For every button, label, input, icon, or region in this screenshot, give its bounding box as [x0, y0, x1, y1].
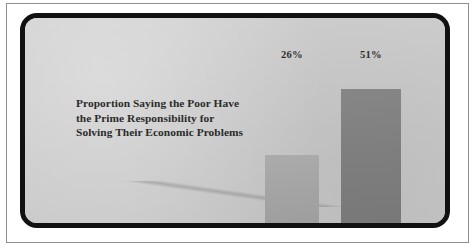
bar-value-most-active-citizens: 51% [341, 49, 401, 60]
chart-frame: Proportion Saying the Poor Have the Prim… [20, 13, 450, 228]
bar-value-inactive-citizens: 26% [265, 49, 319, 60]
bar-label-most-active-citizens-line-1: Most Active [319, 225, 423, 228]
bar-label-inactive-citizens-line-1: Inactive [243, 225, 341, 228]
bar-label-most-active-citizens: Most Active Citizens [319, 225, 423, 228]
bar-inactive-citizens [265, 155, 319, 223]
bar-group-inactive-citizens: 26% Inactive Citizens [265, 45, 319, 223]
bar-most-active-citizens [341, 89, 401, 223]
bar-group-most-active-citizens: 51% Most Active Citizens [341, 45, 401, 223]
bar-label-inactive-citizens: Inactive Citizens [243, 225, 341, 228]
page-sheet: Proportion Saying the Poor Have the Prim… [0, 0, 476, 248]
chart-plot-area: 26% Inactive Citizens 51% Most Active Ci… [25, 18, 445, 223]
